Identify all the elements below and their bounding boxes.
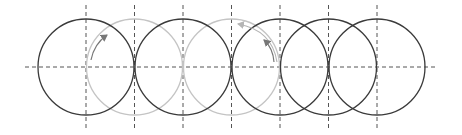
- circle-rolling-diagram: [0, 0, 462, 135]
- left-rotation-arrow: [91, 35, 107, 60]
- diagram-svg: [0, 0, 462, 135]
- right-rotation-arrow-outer: [238, 24, 277, 62]
